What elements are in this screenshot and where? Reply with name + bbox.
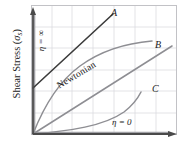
curve-a-label: A [111, 8, 117, 18]
y-axis-label-close: ) [11, 29, 22, 33]
curve-b-label: B [155, 40, 161, 50]
eta-zero-annotation: η = 0 [112, 118, 132, 127]
y-axis-label-text: Shear Stress ( [11, 41, 22, 99]
curve-c-label: C [152, 84, 159, 94]
rheology-chart-figure: Shear Stress (σs) η = ∞ η = 0 Newtonian … [0, 0, 182, 152]
eta-infinity-annotation: η = ∞ [37, 21, 46, 61]
y-axis-label: Shear Stress (σs) [12, 8, 23, 120]
chart-plot-area [0, 0, 182, 152]
sigma-subscript: s [15, 33, 24, 36]
sigma-symbol: σ [11, 35, 22, 40]
